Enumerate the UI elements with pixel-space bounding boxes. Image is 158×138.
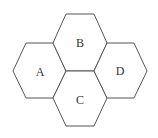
label-b: B <box>76 36 84 50</box>
label-c: C <box>76 93 84 107</box>
label-d: D <box>116 64 125 78</box>
hexagon-diagram: A B C D <box>0 0 158 138</box>
hexagon-diagram-canvas: A B C D <box>0 0 158 138</box>
label-a: A <box>36 65 45 79</box>
